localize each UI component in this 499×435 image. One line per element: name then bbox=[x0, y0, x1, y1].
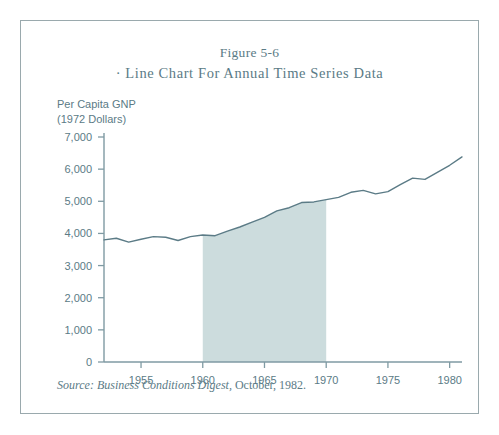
y-axis-tick-label: 0 bbox=[86, 356, 92, 368]
source-note: Source: Business Conditions Digest, Octo… bbox=[57, 378, 306, 393]
x-axis-tick-label: 1980 bbox=[437, 374, 461, 386]
line-chart-svg: 01,0002,0003,0004,0005,0006,0007,000 195… bbox=[21, 21, 480, 415]
y-axis-tick-label: 6,000 bbox=[64, 163, 92, 175]
y-axis-ticks bbox=[98, 137, 104, 362]
source-date: October, 1982. bbox=[232, 378, 306, 392]
x-axis-ticks bbox=[141, 362, 450, 368]
y-axis-tick-labels: 01,0002,0003,0004,0005,0006,0007,000 bbox=[64, 131, 92, 368]
recession-shaded-band bbox=[203, 200, 326, 362]
figure-card: Figure 5-6 · Line Chart For Annual Time … bbox=[20, 20, 479, 414]
shaded-band-shape bbox=[203, 200, 326, 362]
y-axis-tick-label: 2,000 bbox=[64, 292, 92, 304]
x-axis-tick-label: 1975 bbox=[376, 374, 400, 386]
y-axis-tick-label: 7,000 bbox=[64, 131, 92, 143]
source-label: Source: bbox=[57, 378, 94, 392]
plot-area: 01,0002,0003,0004,0005,0006,0007,000 195… bbox=[21, 21, 480, 415]
y-axis-tick-label: 5,000 bbox=[64, 195, 92, 207]
x-axis-tick-label: 1970 bbox=[314, 374, 338, 386]
y-axis-tick-label: 3,000 bbox=[64, 260, 92, 272]
y-axis-tick-label: 1,000 bbox=[64, 324, 92, 336]
source-publication: Business Conditions Digest, bbox=[94, 378, 232, 392]
y-axis-tick-label: 4,000 bbox=[64, 227, 92, 239]
